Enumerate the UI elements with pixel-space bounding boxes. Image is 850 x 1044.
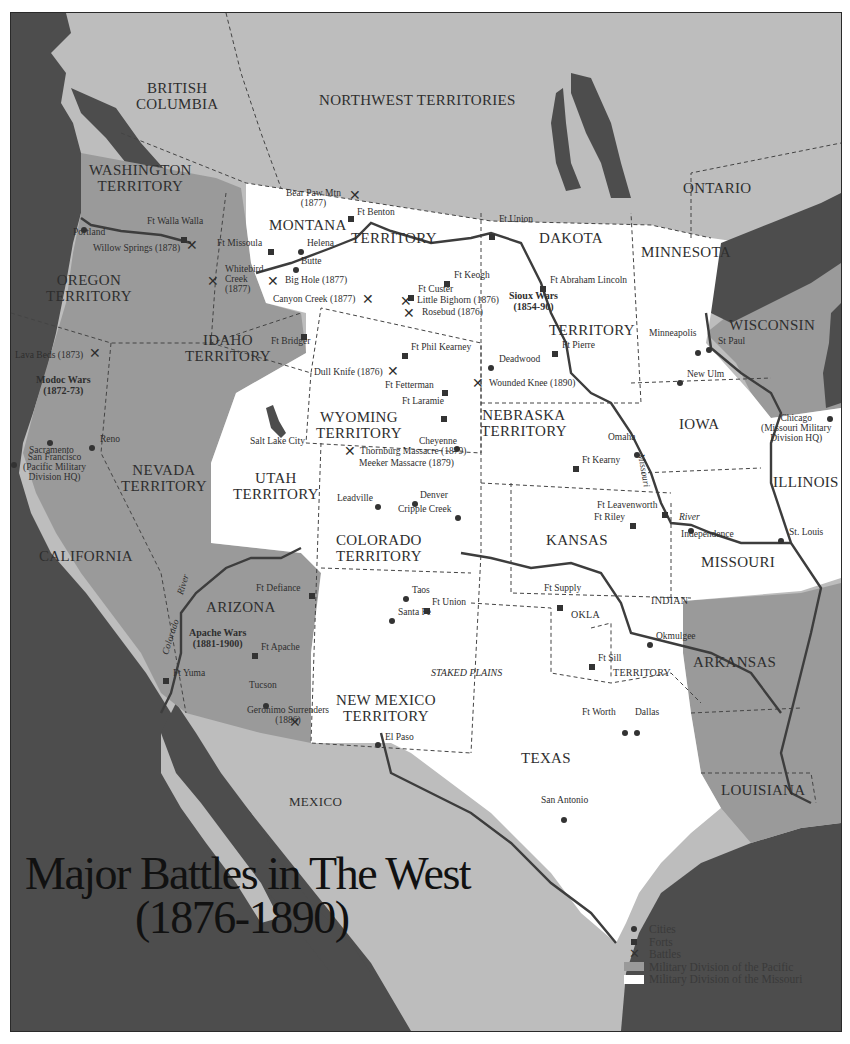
- label-ft-union-dakota: Ft Union: [499, 215, 533, 225]
- region-indian: INDIAN: [651, 596, 688, 607]
- fort-icon: [252, 646, 258, 663]
- war-modoc: Modoc Wars (1872-73): [36, 375, 91, 396]
- region-utah: UTAH TERRITORY: [233, 471, 319, 503]
- city-icon: [695, 343, 701, 360]
- region-dakota-territory: TERRITORY: [549, 323, 635, 339]
- label-minneapolis: Minneapolis: [649, 329, 697, 339]
- legend-forts-label: Forts: [649, 936, 673, 948]
- legend-pacific-label: Military Division of the Pacific: [649, 961, 793, 973]
- label-ft-pierre: Ft Pierre: [562, 341, 595, 351]
- region-new-mexico: NEW MEXICO TERRITORY: [336, 693, 436, 725]
- label-ft-defiance: Ft Defiance: [256, 584, 301, 594]
- label-thornburg: Thornburg Massacre (1879): [360, 447, 466, 457]
- region-missouri: MISSOURI: [701, 555, 775, 571]
- war-sioux: Sioux Wars (1854-90): [509, 291, 558, 312]
- region-wyoming: WYOMING TERRITORY: [316, 410, 402, 442]
- battle-icon: ✕: [623, 946, 645, 962]
- legend-battles-label: Battles: [649, 948, 681, 960]
- label-ft-riley: Ft Riley: [594, 513, 625, 523]
- battle-icon: ✕: [267, 275, 279, 290]
- war-apache: Apache Wars (1881-1900): [189, 628, 246, 649]
- label-rosebud: Rosebud (1876): [422, 308, 483, 318]
- legend-missouri: Military Division of the Missouri: [623, 973, 802, 986]
- pacific-swatch: [624, 962, 644, 971]
- label-bear-paw: Bear Paw Mtn (1877): [286, 189, 341, 209]
- region-illinois: ILLINOIS: [773, 475, 839, 491]
- label-omaha: Omaha: [608, 433, 635, 443]
- label-big-hole: Big Hole (1877): [285, 276, 347, 286]
- fort-icon: [552, 344, 558, 361]
- region-oregon: OREGON TERRITORY: [46, 273, 132, 305]
- label-el-paso: El Paso: [385, 733, 414, 743]
- label-ft-walla-walla: Ft Walla Walla: [147, 217, 203, 227]
- label-lava-beds: Lava Beds (1873): [15, 351, 83, 361]
- region-mexico: MEXICO: [289, 795, 342, 809]
- city-icon: [677, 373, 683, 390]
- label-taos: Taos: [412, 586, 430, 596]
- city-icon: [706, 340, 712, 357]
- city-icon: [375, 735, 381, 752]
- fort-icon: [662, 505, 668, 522]
- label-st-louis: St. Louis: [789, 528, 823, 538]
- map-subtitle: (1876-1890): [135, 895, 348, 941]
- label-ft-missoula: Ft Missoula: [217, 239, 262, 249]
- missouri-swatch: [624, 975, 644, 984]
- city-icon: [634, 445, 640, 462]
- region-okla: OKLA: [571, 610, 600, 621]
- city-icon: [455, 508, 461, 525]
- region-arizona: ARIZONA: [206, 600, 276, 616]
- label-cripple-creek: Cripple Creek: [398, 505, 452, 515]
- region-kansas: KANSAS: [546, 533, 608, 549]
- city-icon: [622, 723, 628, 740]
- legend-missouri-label: Military Division of the Missouri: [649, 973, 802, 985]
- label-san-francisco: San Francisco (Pacific Military Division…: [23, 453, 86, 483]
- region-wisconsin: WISCONSIN: [729, 318, 815, 334]
- fort-icon: [631, 939, 637, 945]
- label-ft-phil-kearney: Ft Phil Kearney: [411, 343, 471, 353]
- battle-icon: ✕: [186, 239, 198, 254]
- label-reno: Reno: [100, 435, 120, 445]
- label-wounded-knee: Wounded Knee (1890): [489, 379, 575, 389]
- region-iowa: IOWA: [679, 417, 719, 433]
- label-st-paul: St Paul: [718, 337, 745, 347]
- region-staked-plains: STAKED PLAINS: [431, 668, 502, 679]
- label-little-bighorn: Little Bighorn (1876): [417, 296, 499, 306]
- battle-icon: ✕: [89, 347, 101, 362]
- label-leadville: Leadville: [337, 494, 373, 504]
- city-icon: [403, 589, 409, 606]
- fort-icon: [557, 598, 563, 615]
- fort-icon: [573, 459, 579, 476]
- label-ft-laramie: Ft Laramie: [402, 397, 444, 407]
- legend-cities-label: Cities: [649, 923, 676, 935]
- label-portland: Portland: [73, 228, 105, 238]
- label-meeker: Meeker Massacre (1879): [359, 459, 454, 469]
- region-texas: TEXAS: [521, 751, 571, 767]
- label-ft-sill: Ft Sill: [598, 654, 622, 664]
- label-ft-worth: Ft Worth: [582, 708, 616, 718]
- label-okmulgee: Okmulgee: [656, 632, 696, 642]
- region-louisiana: LOUISIANA: [721, 783, 805, 799]
- label-ft-keogh: Ft Keogh: [454, 271, 490, 281]
- label-salt-lake-city: Salt Lake City: [250, 437, 305, 447]
- fort-icon: [489, 227, 495, 244]
- label-ft-yuma: Ft Yuma: [173, 669, 205, 679]
- region-washington: WASHINGTON TERRITORY: [89, 163, 192, 195]
- label-ft-leavenworth: Ft Leavenworth: [597, 501, 657, 511]
- city-icon: [631, 926, 637, 932]
- label-san-antonio: San Antonio: [541, 796, 588, 806]
- region-california: CALIFORNIA: [39, 549, 133, 565]
- city-icon: [389, 611, 395, 628]
- fort-icon: [630, 516, 636, 533]
- battle-icon: ✕: [289, 716, 301, 731]
- label-ft-benton: Ft Benton: [357, 208, 395, 218]
- label-ft-fetterman: Ft Fetterman: [385, 381, 434, 391]
- city-icon: [561, 810, 567, 827]
- label-ft-union-nm: Ft Union: [432, 598, 466, 608]
- label-willow-springs: Willow Springs (1878): [93, 244, 180, 254]
- label-helena: Helena: [307, 239, 334, 249]
- region-northwest-territories: NORTHWEST TERRITORIES: [319, 93, 516, 109]
- fort-icon: [348, 209, 354, 226]
- battle-icon: ✕: [207, 275, 219, 290]
- city-icon: [375, 497, 381, 514]
- fort-icon: [163, 671, 169, 688]
